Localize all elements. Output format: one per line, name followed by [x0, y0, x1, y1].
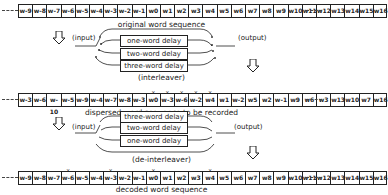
word-cell: w3	[188, 172, 202, 184]
trail-dash	[306, 99, 322, 100]
word-cell: w6	[231, 172, 245, 184]
word-cell: w14	[344, 172, 358, 184]
word-label: w8	[262, 174, 272, 181]
word-cell: w-7	[103, 94, 117, 106]
word-cell: w-3	[18, 94, 32, 106]
word-label: w-5	[62, 96, 74, 103]
word-label: w5	[248, 96, 258, 103]
word-label: w-8	[119, 96, 131, 103]
word-cell: w0×	[146, 94, 160, 106]
word-label: w-9	[19, 174, 31, 181]
word-label: w-7	[105, 96, 117, 103]
word-label: w-4	[90, 96, 102, 103]
word-cell: w16	[373, 5, 387, 17]
word-cell: w15	[359, 172, 373, 184]
word-cell: w7	[245, 172, 259, 184]
word-cell: w7	[359, 94, 373, 106]
delay-box-one: one-word delay	[120, 35, 188, 47]
word-cell: w8	[259, 172, 273, 184]
word-cell: w16	[373, 94, 387, 106]
interleaver-caption: (interleaver)	[0, 73, 323, 82]
word-cell: w-8	[32, 172, 46, 184]
word-cell: w-4	[89, 94, 103, 106]
word-label: w-8	[34, 174, 46, 181]
word-label: w-4	[90, 174, 102, 181]
word-cell: w-2×	[188, 94, 202, 106]
word-cell: w14	[344, 5, 358, 17]
word-cell: w-6×	[174, 94, 188, 106]
delay-box-two: two-word delay	[120, 122, 188, 134]
lead-dash	[2, 99, 18, 100]
deinterleaver-output-label: (output)	[234, 123, 263, 131]
word-label: w-1	[275, 96, 287, 103]
error-mark-icon: ×	[175, 86, 188, 98]
word-cell: w15	[359, 5, 373, 17]
word-label: w-3	[19, 96, 31, 103]
delay-box-one: one-word delay	[120, 135, 188, 147]
deinterleaver-input-label: (input)	[72, 123, 95, 131]
word-cell: w-9	[18, 172, 32, 184]
word-label: w14	[345, 174, 359, 181]
word-cell: w2	[174, 172, 188, 184]
word-cell: w13	[330, 94, 344, 106]
word-label: w-5	[76, 174, 88, 181]
word-cell: w12	[316, 172, 330, 184]
word-cell: w13	[330, 5, 344, 17]
word-label: w-9	[76, 96, 88, 103]
word-label: w15	[360, 174, 374, 181]
word-cell: w1	[160, 172, 174, 184]
decoded-caption: decoded word sequence	[0, 185, 323, 194]
word-cell: w9	[288, 94, 302, 106]
word-cell: w-6×	[61, 172, 75, 184]
word-label: w16	[374, 174, 388, 181]
word-label: w3	[191, 174, 201, 181]
word-label: w7	[361, 96, 371, 103]
word-cell: w-4	[89, 172, 103, 184]
word-label: w-2	[119, 174, 131, 181]
error-mark-icon: ×	[203, 164, 216, 176]
word-cell: w-2	[231, 94, 245, 106]
word-label: w9	[276, 174, 286, 181]
deinterleaver-caption: (de-interleaver)	[0, 155, 323, 164]
down-arrow-icon	[52, 117, 66, 131]
word-cell: w0×	[146, 172, 160, 184]
word-label: w2	[177, 174, 187, 181]
error-mark-icon: ×	[189, 86, 202, 98]
word-cell: w-10	[46, 94, 60, 106]
word-cell: w-5	[61, 94, 75, 106]
dispersed-word-sequence: w-3w-6w-10w-5w-9w-4w-7w-8w-3w0×w-3×w-6×w…	[0, 93, 323, 107]
word-cell: w5	[217, 172, 231, 184]
word-label: w7	[248, 174, 258, 181]
word-cell: w1	[217, 94, 231, 106]
decoded-word-sequence: w-9w-8w-7w-6×w-5w-4w-3×w-2w-1w0×w1w2w3w4…	[0, 171, 323, 185]
word-cell: w4×	[202, 172, 216, 184]
word-label: w6	[234, 174, 244, 181]
word-label: w16	[374, 7, 388, 14]
word-cell: w2	[259, 94, 273, 106]
word-cell: w11	[302, 172, 316, 184]
word-cell: w-7	[46, 172, 60, 184]
word-label: w-3	[133, 96, 145, 103]
delay-box-two: two-word delay	[120, 48, 188, 60]
word-label: w10	[289, 174, 303, 181]
error-mark-icon: ×	[104, 164, 117, 176]
word-label: w16	[374, 96, 388, 103]
word-cell: w9	[273, 172, 287, 184]
word-label: w2	[262, 96, 272, 103]
word-cell: w-5	[75, 172, 89, 184]
word-label: w-2	[232, 96, 244, 103]
word-label: w-1	[133, 174, 145, 181]
trail-dash	[306, 177, 322, 178]
word-cell: w4×	[202, 94, 216, 106]
word-cell: w6	[302, 94, 316, 106]
error-mark-icon: ×	[147, 86, 160, 98]
word-label: w10	[345, 96, 359, 103]
error-mark-icon: ×	[161, 86, 174, 98]
word-label: w13	[331, 7, 345, 14]
word-label: w13	[331, 174, 345, 181]
word-cell: w10	[344, 94, 358, 106]
word-cell: w-3×	[160, 94, 174, 106]
word-label: w1	[163, 174, 173, 181]
word-label: w15	[360, 7, 374, 14]
decoded-cells: w-9w-8w-7w-6×w-5w-4w-3×w-2w-1w0×w1w2w3w4…	[18, 171, 387, 185]
